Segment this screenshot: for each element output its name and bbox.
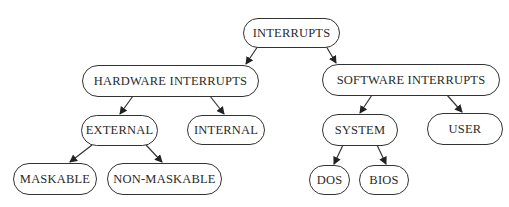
edge-arrow-software-to-user	[447, 95, 462, 112]
edge-arrow-system-to-dos	[334, 145, 343, 164]
node-label: SOFTWARE INTERRUPTS	[337, 73, 486, 88]
node-label: INTERNAL	[194, 123, 258, 138]
edge-arrow-hardware-to-external	[120, 96, 133, 114]
node-label: SYSTEM	[335, 123, 386, 138]
node-interrupts: INTERRUPTS	[243, 18, 340, 48]
node-label: MASKABLE	[20, 172, 90, 187]
node-label: INTERRUPTS	[253, 26, 331, 41]
edge-arrow-external-to-maskable	[70, 145, 92, 162]
node-label: HARDWARE INTERRUPTS	[94, 74, 247, 89]
node-bios: BIOS	[359, 165, 409, 195]
node-system: SYSTEM	[322, 114, 398, 146]
node-label: EXTERNAL	[86, 123, 154, 138]
node-label: BIOS	[369, 173, 398, 188]
node-maskable: MASKABLE	[13, 163, 97, 195]
node-label: USER	[449, 122, 482, 137]
edge-arrow-external-to-nonmaskable	[146, 145, 162, 162]
node-label: DOS	[317, 173, 343, 188]
node-dos: DOS	[309, 165, 350, 195]
node-internal: INTERNAL	[187, 115, 265, 145]
node-non-maskable: NON-MASKABLE	[107, 163, 222, 195]
node-software-interrupts: SOFTWARE INTERRUPTS	[322, 64, 500, 96]
node-label: NON-MASKABLE	[113, 172, 215, 187]
edge-arrow-system-to-bios	[377, 145, 386, 164]
edge-arrow-software-to-system	[360, 95, 372, 113]
node-external: EXTERNAL	[81, 115, 158, 146]
node-hardware-interrupts: HARDWARE INTERRUPTS	[82, 65, 259, 97]
edge-arrow-interrupts-to-hardware	[246, 46, 258, 64]
interrupts-tree-diagram: INTERRUPTS HARDWARE INTERRUPTS SOFTWARE …	[0, 0, 509, 207]
node-user: USER	[427, 113, 503, 145]
edge-arrow-interrupts-to-software	[326, 46, 336, 63]
edge-arrow-hardware-to-internal	[210, 96, 224, 114]
